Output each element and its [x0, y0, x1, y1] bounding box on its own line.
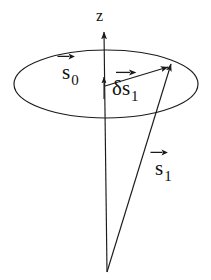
vector-s0-label-group: s 0 — [62, 62, 78, 83]
vector-s1-subscript: 1 — [164, 168, 172, 184]
vector-delta-s1-label: δ s 1 — [112, 78, 138, 99]
vector-s1-base: s — [155, 156, 163, 180]
vector-s0-subscript: 0 — [71, 72, 79, 88]
diagram-canvas — [0, 0, 211, 280]
vector-delta-s1-glyph-stack: s — [122, 78, 130, 99]
z-axis-label: z — [96, 8, 103, 24]
vector-s0-glyph-stack: s — [62, 62, 70, 83]
vector-s1-label: s 1 — [155, 158, 171, 179]
vector-delta-s1-label-group: δ s 1 — [112, 78, 138, 99]
vector-s1-label-group: s 1 — [155, 158, 171, 179]
delta-symbol: δ — [112, 76, 122, 100]
vector-delta-s1-base: s — [122, 76, 130, 100]
vector-s1-glyph-stack: s — [155, 158, 163, 179]
vector-diagram: z s 0 δ s 1 — [0, 0, 211, 280]
precession-circle-ellipse — [14, 50, 198, 118]
vector-s0-base: s — [62, 60, 70, 84]
z-axis-line — [104, 32, 107, 272]
vector-delta-s1-subscript: 1 — [131, 88, 139, 104]
vector-s0-label: s 0 — [62, 62, 78, 83]
